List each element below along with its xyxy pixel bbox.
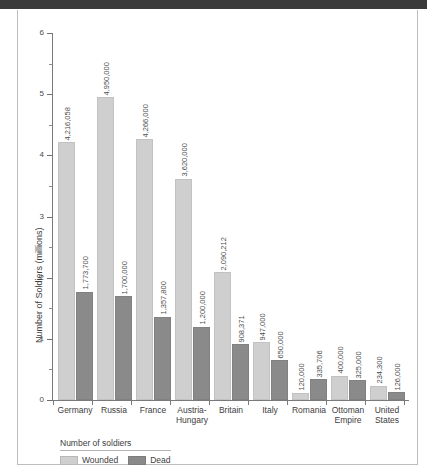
bar-value-label: 2,090,212: [219, 237, 227, 270]
plot-area: Number of Soldiers (millions) 4,216,0581…: [52, 33, 408, 400]
bar-wounded[interactable]: 400,000: [331, 376, 348, 400]
bar-group: 947,000650,000: [253, 33, 289, 400]
y-tick-label: 3: [30, 213, 44, 221]
legend-item-wounded[interactable]: Wounded: [60, 455, 118, 465]
bar-value-label: 650,000: [276, 331, 284, 358]
legend-label: Dead: [150, 455, 170, 465]
bar-value-label: 126,000: [393, 363, 401, 390]
x-tick-mark: [404, 401, 405, 405]
bar-value-label: 4,266,000: [141, 104, 149, 137]
legend-label: Wounded: [82, 455, 118, 465]
x-category-label-line: Hungary: [166, 415, 218, 425]
bar-value-label: 1,357,800: [159, 282, 167, 315]
bar-dead[interactable]: 1,357,800: [154, 317, 171, 400]
legend-title: Number of soldiers: [60, 438, 171, 451]
bar-group: 4,950,0001,700,000: [97, 33, 133, 400]
bar-value-label: 947,000: [258, 313, 266, 340]
y-tick-label: 5: [30, 90, 44, 98]
chart-legend: Number of soldiers WoundedDead: [60, 432, 171, 465]
bar-group: 4,266,0001,357,800: [136, 33, 172, 400]
x-axis-line: [52, 400, 409, 401]
bar-chart: 0123456 Number of Soldiers (millions) 4,…: [0, 0, 427, 475]
bar-group: 234,300126,000: [370, 33, 406, 400]
y-tick-mark: [47, 400, 52, 401]
bar-group: 4,216,0581,773,700: [58, 33, 94, 400]
bar-value-label: 325,000: [354, 351, 362, 378]
bar-value-label: 3,620,000: [180, 143, 188, 176]
bar-value-label: 234,300: [375, 357, 383, 384]
bar-value-label: 1,700,000: [120, 261, 128, 294]
bar-value-label: 120,000: [297, 364, 305, 391]
legend-swatch: [60, 456, 78, 465]
bar-wounded[interactable]: 947,000: [253, 342, 270, 400]
bar-dead[interactable]: 325,000: [349, 380, 366, 400]
bar-value-label: 4,950,000: [102, 62, 110, 95]
y-tick-label: 0: [30, 396, 44, 404]
bar-wounded[interactable]: 4,216,058: [58, 142, 75, 400]
legend-items: WoundedDead: [60, 455, 171, 465]
legend-swatch: [128, 456, 146, 465]
y-tick-label: 6: [30, 29, 44, 37]
bar-wounded[interactable]: 4,266,000: [136, 139, 153, 400]
bar-group: 400,000325,000: [331, 33, 367, 400]
bar-dead[interactable]: 650,000: [271, 360, 288, 400]
y-tick-label: 4: [30, 151, 44, 159]
x-category-label-line: United: [361, 405, 413, 415]
legend-item-dead[interactable]: Dead: [128, 455, 170, 465]
bar-dead[interactable]: 908,371: [232, 344, 249, 400]
bar-dead[interactable]: 126,000: [388, 392, 405, 400]
bar-value-label: 335,706: [315, 350, 323, 377]
bar-wounded[interactable]: 4,950,000: [97, 97, 114, 400]
bar-value-label: 4,216,058: [63, 107, 71, 140]
bar-dead[interactable]: 335,706: [310, 379, 327, 400]
bar-group: 3,620,0001,200,000: [175, 33, 211, 400]
bar-group: 120,000335,706: [292, 33, 328, 400]
bar-wounded[interactable]: 2,090,212: [214, 272, 231, 400]
x-category-label: UnitedStates: [361, 405, 413, 425]
bar-value-label: 400,000: [336, 346, 344, 373]
x-category-label-line: States: [361, 415, 413, 425]
bar-group: 2,090,212908,371: [214, 33, 250, 400]
bar-dead[interactable]: 1,700,000: [115, 296, 132, 400]
bar-wounded[interactable]: 3,620,000: [175, 179, 192, 400]
bar-wounded[interactable]: 234,300: [370, 386, 387, 400]
bar-value-label: 1,200,000: [198, 291, 206, 324]
y-axis-label: Number of Soldiers (millions): [34, 227, 44, 343]
bar-dead[interactable]: 1,773,700: [76, 292, 93, 400]
bar-wounded[interactable]: 120,000: [292, 393, 309, 400]
bar-dead[interactable]: 1,200,000: [193, 327, 210, 400]
bar-value-label: 908,371: [237, 315, 245, 342]
bar-value-label: 1,773,700: [81, 256, 89, 289]
